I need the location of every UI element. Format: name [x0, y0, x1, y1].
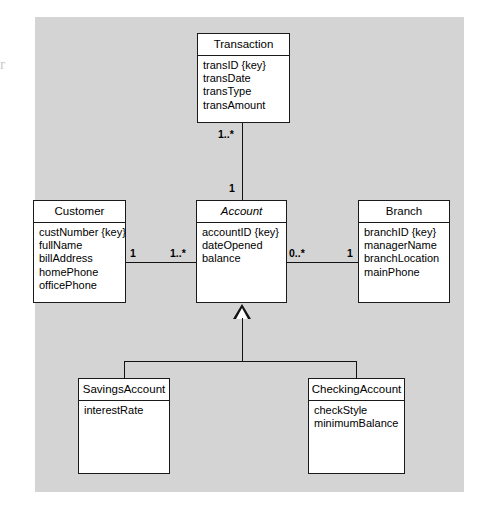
- generalization-stem-vertical: [242, 318, 243, 361]
- class-name-savingsaccount: SavingsAccount: [79, 379, 169, 401]
- attribute-item: officePhone: [39, 279, 125, 292]
- attribute-item: custNumber {key}: [39, 226, 125, 239]
- class-box-customer[interactable]: Customer custNumber {key} fullName billA…: [33, 200, 126, 303]
- page-edge-artifact: r: [0, 55, 10, 73]
- class-name-account: Account: [197, 201, 286, 223]
- association-line-account-branch: [287, 262, 358, 263]
- class-attributes-account: accountID {key} dateOpened balance: [197, 223, 286, 266]
- class-attributes-customer: custNumber {key} fullName billAddress ho…: [34, 223, 125, 292]
- multiplicity-account-to-transaction: 1: [229, 183, 235, 194]
- multiplicity-account-to-customer: 1..*: [170, 248, 186, 259]
- attribute-item: mainPhone: [364, 266, 449, 279]
- class-box-checkingaccount[interactable]: CheckingAccount checkStyle minimumBalanc…: [308, 378, 405, 474]
- multiplicity-account-to-branch: 0..*: [289, 248, 305, 259]
- attribute-item: checkStyle: [314, 404, 404, 417]
- class-attributes-branch: branchID {key} managerName branchLocatio…: [359, 223, 449, 279]
- attribute-item: interestRate: [84, 404, 169, 417]
- class-attributes-transaction: transID {key} transDate transType transA…: [198, 56, 289, 112]
- attribute-item: balance: [202, 252, 286, 265]
- class-box-account[interactable]: Account accountID {key} dateOpened balan…: [196, 200, 287, 303]
- class-box-savingsaccount[interactable]: SavingsAccount interestRate: [78, 378, 170, 474]
- attribute-item: transAmount: [203, 99, 289, 112]
- association-line-transaction-account: [242, 123, 243, 200]
- attribute-item: branchLocation: [364, 252, 449, 265]
- class-attributes-savingsaccount: interestRate: [79, 401, 169, 417]
- attribute-item: transDate: [203, 72, 289, 85]
- attribute-item: homePhone: [39, 266, 125, 279]
- generalization-triangle-fill: [236, 308, 248, 319]
- attribute-item: fullName: [39, 239, 125, 252]
- class-name-transaction: Transaction: [198, 34, 289, 56]
- attribute-item: accountID {key}: [202, 226, 286, 239]
- multiplicity-transaction-to-account: 1..*: [218, 129, 234, 140]
- attribute-item: billAddress: [39, 252, 125, 265]
- generalization-bar-horizontal: [124, 361, 357, 362]
- attribute-item: minimumBalance: [314, 417, 404, 430]
- attribute-item: dateOpened: [202, 239, 286, 252]
- generalization-drop-checkingaccount: [356, 361, 357, 379]
- class-name-checkingaccount: CheckingAccount: [309, 379, 404, 401]
- class-box-branch[interactable]: Branch branchID {key} managerName branch…: [358, 200, 450, 303]
- attribute-item: branchID {key}: [364, 226, 449, 239]
- class-attributes-checkingaccount: checkStyle minimumBalance: [309, 401, 404, 430]
- attribute-item: transID {key}: [203, 59, 289, 72]
- class-name-branch: Branch: [359, 201, 449, 223]
- multiplicity-branch-to-account: 1: [347, 248, 353, 259]
- class-name-customer: Customer: [34, 201, 125, 223]
- attribute-item: transType: [203, 85, 289, 98]
- class-box-transaction[interactable]: Transaction transID {key} transDate tran…: [197, 33, 290, 123]
- uml-diagram-canvas: Transaction transID {key} transDate tran…: [35, 17, 464, 492]
- generalization-drop-savingsaccount: [124, 361, 125, 379]
- attribute-item: managerName: [364, 239, 449, 252]
- association-line-customer-account: [126, 262, 196, 263]
- multiplicity-customer-to-account: 1: [130, 248, 136, 259]
